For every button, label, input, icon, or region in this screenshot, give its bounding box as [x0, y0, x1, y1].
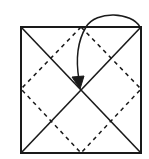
origami-diagram [0, 0, 149, 159]
